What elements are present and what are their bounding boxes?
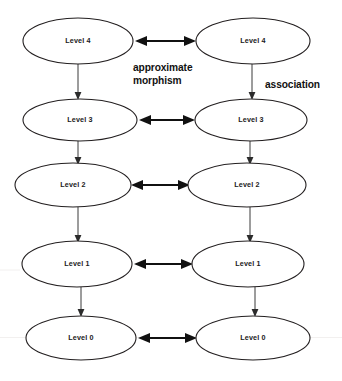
association-label-line1: association	[265, 79, 320, 90]
node-left-level-1[interactable]: Level 1	[22, 241, 132, 287]
node-right-level-2[interactable]: Level 2	[188, 163, 306, 207]
node-label: Level 2	[60, 180, 85, 189]
node-label: Level 0	[240, 333, 265, 342]
node-label: Level 4	[240, 36, 265, 45]
hierarchy-diagram: Level 4 Level 4 Level 3 Level 3 Level 2 …	[0, 0, 342, 381]
node-left-level-2[interactable]: Level 2	[15, 163, 131, 207]
node-right-level-3[interactable]: Level 3	[195, 99, 307, 141]
node-label: Level 1	[64, 259, 89, 268]
node-label: Level 2	[234, 180, 259, 189]
association-label: association	[265, 79, 320, 90]
node-label: Level 1	[235, 259, 260, 268]
node-left-level-4[interactable]: Level 4	[23, 18, 133, 64]
node-left-level-0[interactable]: Level 0	[26, 316, 136, 360]
node-label: Level 4	[65, 36, 90, 45]
node-label: Level 3	[67, 115, 92, 124]
node-right-level-4[interactable]: Level 4	[196, 18, 310, 64]
node-label: Level 3	[238, 115, 263, 124]
node-right-level-0[interactable]: Level 0	[196, 316, 310, 360]
approximate-morphism-label-line1: approximate	[133, 62, 193, 73]
node-left-level-3[interactable]: Level 3	[23, 99, 137, 141]
approximate-morphism-label-line2: morphism	[133, 75, 181, 86]
diagram-canvas: Level 4 Level 4 Level 3 Level 3 Level 2 …	[0, 0, 342, 381]
node-label: Level 0	[68, 333, 93, 342]
node-right-level-1[interactable]: Level 1	[192, 241, 304, 287]
